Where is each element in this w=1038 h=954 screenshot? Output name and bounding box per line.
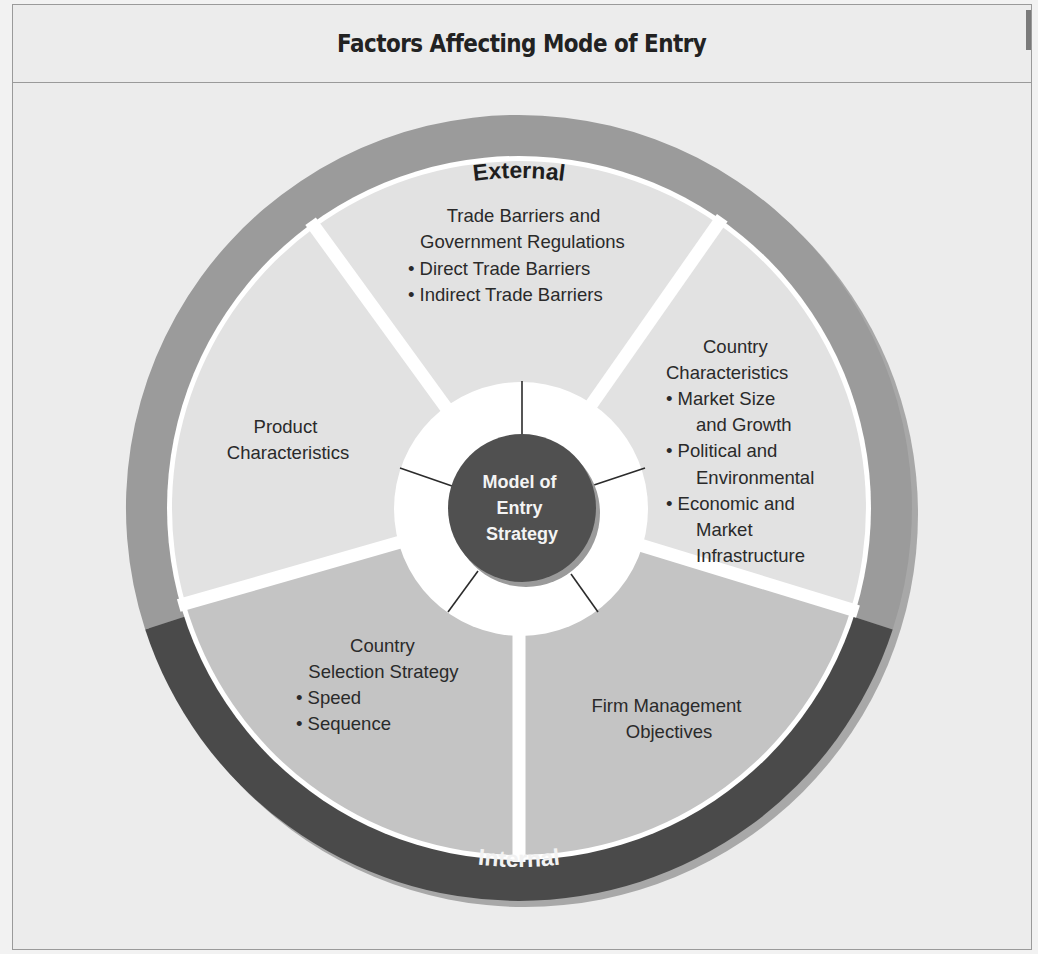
label-line: Trade Barriers and: [447, 205, 601, 226]
label-line: and Growth: [696, 414, 792, 435]
label-line: • Speed: [296, 687, 361, 708]
label-line: Characteristics: [666, 362, 788, 383]
label-line: Environmental: [696, 467, 814, 488]
label-line: • Political and: [666, 440, 777, 461]
label-line: Firm Management: [591, 695, 741, 716]
label-line: Country: [703, 336, 769, 357]
label-line: • Market Size: [666, 388, 775, 409]
label-line: Product: [254, 416, 318, 437]
entry-mode-diagram: Model of Entry Strategy External Interna…: [0, 0, 1038, 954]
internal-label-text: Internal: [477, 844, 561, 872]
label-line: Government Regulations: [420, 231, 625, 252]
label-line: Objectives: [626, 721, 712, 742]
center-label-line: Strategy: [486, 524, 558, 544]
label-line: • Indirect Trade Barriers: [408, 284, 603, 305]
external-label-text: External: [471, 157, 566, 186]
center-label-line: Model of: [482, 472, 557, 492]
internal-ring-label: Internal: [477, 844, 561, 872]
label-line: Characteristics: [227, 442, 349, 463]
center-label-line: Entry: [496, 498, 542, 518]
label-line: Market: [696, 519, 753, 540]
label-line: Infrastructure: [696, 545, 805, 566]
label-line: • Sequence: [296, 713, 391, 734]
label-line: • Direct Trade Barriers: [408, 258, 590, 279]
external-ring-label: External: [471, 157, 566, 186]
label-line: Selection Strategy: [308, 661, 459, 682]
label-line: • Economic and: [666, 493, 795, 514]
label-line: Country: [350, 635, 416, 656]
